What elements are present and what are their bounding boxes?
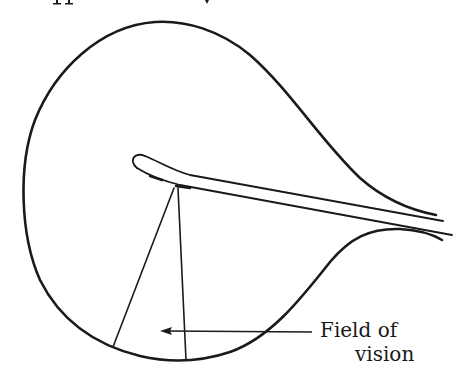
diagram-figure: Field of vision: [0, 0, 466, 381]
rod-knob-tip: [133, 155, 145, 168]
cropped-text-fragment: [53, 0, 209, 5]
vision-line-right: [178, 188, 186, 360]
pointer-arrow-shaft: [166, 331, 312, 332]
rod-lower-edge: [137, 168, 452, 235]
bulb-outline-upper: [24, 22, 442, 361]
vision-line-left: [113, 188, 174, 347]
label-vision: vision: [354, 342, 414, 366]
label-field-of: Field of: [320, 318, 399, 342]
